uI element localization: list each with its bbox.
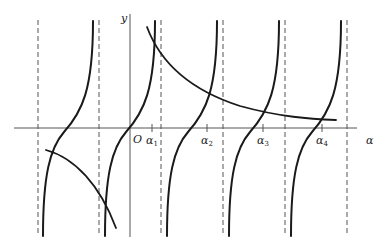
origin-label: O — [133, 134, 142, 145]
tick-label-alpha3: α3 — [257, 135, 269, 148]
y-axis-label: y — [121, 13, 127, 24]
tick-label-sub: 3 — [264, 140, 268, 148]
x-axis-label: α — [366, 135, 373, 146]
tick-label-alpha2: α2 — [201, 135, 213, 148]
tick-label-sub: 4 — [323, 140, 327, 148]
tick-label-alpha4: α4 — [316, 135, 328, 148]
plot-svg — [0, 0, 386, 247]
tick-label-alpha1: α1 — [146, 135, 158, 148]
axes — [14, 14, 357, 237]
tick-label-sub: 2 — [208, 140, 212, 148]
hyperbola-upper-branch — [147, 27, 336, 120]
diagram-canvas: y O α α1 α2 α3 α4 — [0, 0, 386, 247]
tick-label-sub: 1 — [153, 140, 157, 148]
